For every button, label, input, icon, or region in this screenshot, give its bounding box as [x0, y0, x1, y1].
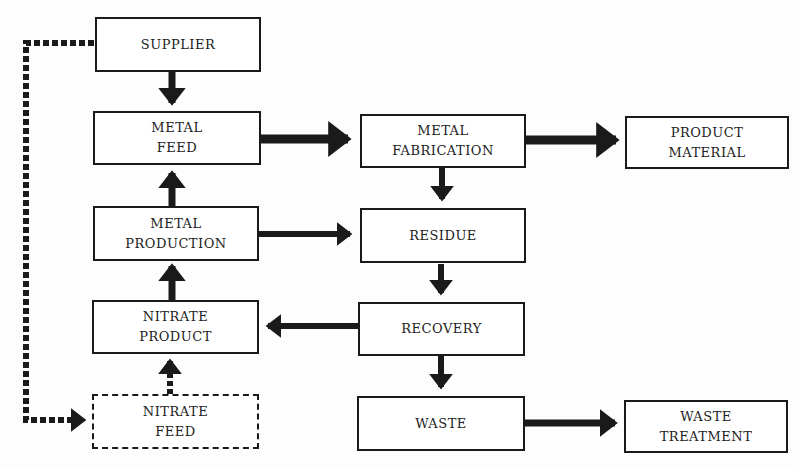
node-metal-production-label: METAL PRODUCTION — [125, 214, 226, 254]
node-product-material-label: PRODUCT MATERIAL — [668, 123, 745, 163]
node-metal-fabrication-label: METAL FABRICATION — [392, 121, 494, 161]
node-waste: WASTE — [357, 396, 525, 451]
node-residue: RESIDUE — [360, 208, 526, 263]
node-supplier: SUPPLIER — [95, 17, 261, 72]
arrow-supplier-to-nitrate-feed — [26, 43, 94, 420]
node-nitrate-product-label: NITRATE PRODUCT — [139, 307, 212, 347]
node-supplier-label: SUPPLIER — [141, 35, 215, 55]
node-nitrate-product: NITRATE PRODUCT — [92, 300, 259, 354]
node-waste-treatment-label: WASTE TREATMENT — [660, 407, 753, 447]
node-metal-production: METAL PRODUCTION — [93, 206, 259, 261]
node-nitrate-feed-label: NITRATE FEED — [143, 402, 208, 442]
node-waste-label: WASTE — [415, 414, 467, 434]
node-recovery: RECOVERY — [358, 302, 525, 356]
node-product-material: PRODUCT MATERIAL — [625, 116, 789, 169]
node-metal-feed-label: METAL FEED — [151, 118, 202, 158]
node-waste-treatment: WASTE TREATMENT — [624, 400, 788, 453]
node-metal-feed: METAL FEED — [93, 111, 261, 165]
node-residue-label: RESIDUE — [409, 226, 477, 246]
node-nitrate-feed: NITRATE FEED — [92, 394, 259, 449]
flow-diagram: SUPPLIER METAL FEED METAL PRODUCTION NIT… — [0, 0, 799, 470]
node-recovery-label: RECOVERY — [401, 319, 482, 339]
node-metal-fabrication: METAL FABRICATION — [360, 114, 526, 168]
